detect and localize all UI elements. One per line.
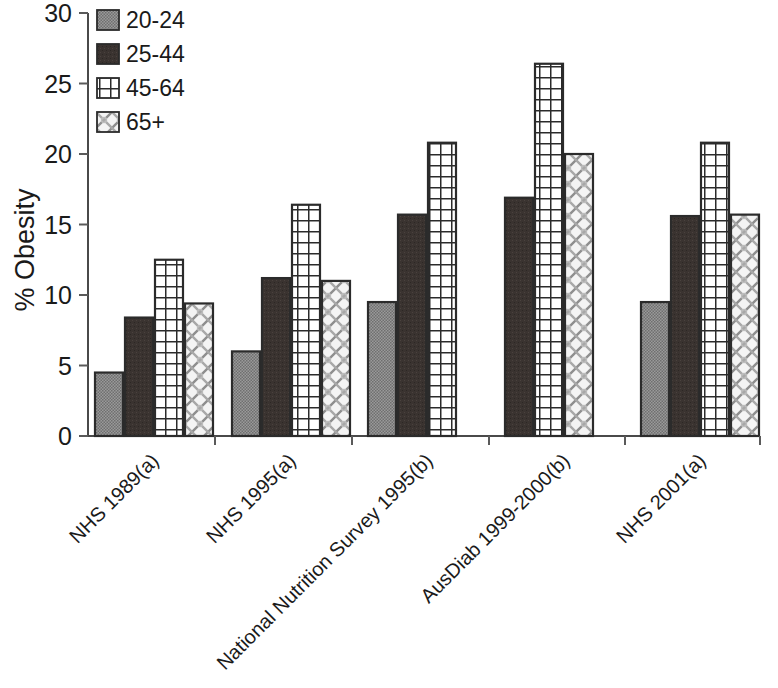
- category-labels-layer: NHS 1989(a)NHS 1995(a)National Nutrition…: [65, 436, 760, 674]
- bars-layer: NHS 1989(a) / 20-24: 4.5NHS 1989(a) / 25…: [95, 64, 759, 436]
- y-axis-tick-label: 30: [44, 0, 72, 27]
- bar-65plus-1: NHS 1989(a) / 65+: 9.4: [185, 303, 213, 436]
- y-axis-tick-label: 15: [44, 211, 72, 239]
- bar-20-24-1: NHS 1989(a) / 20-24: 4.5: [95, 373, 123, 436]
- legend-label-20-24: 20-24: [126, 7, 185, 33]
- legend-swatch-65plus: [97, 112, 119, 132]
- chart-legend: 20-2425-4445-6465+: [97, 7, 185, 135]
- bar-65plus-4: AusDiab 1999-2000(b) / 65+: 20: [565, 154, 593, 436]
- bar-45-64-4: AusDiab 1999-2000(b) / 45-64: 26.4: [535, 64, 563, 436]
- legend-swatch-20-24: [97, 10, 119, 30]
- bar-45-64-3: National Nutrition Survey 1995(b) / 45-6…: [428, 143, 456, 436]
- bar-65plus-2: NHS 1995(a) / 65+: 11: [322, 281, 350, 436]
- legend-label-25-44: 25-44: [126, 41, 185, 67]
- y-axis-tick-label: 5: [58, 352, 72, 380]
- legend-swatch-25-44: [97, 44, 119, 64]
- y-axis-tick-label: 0: [58, 422, 72, 450]
- bar-25-44-4: AusDiab 1999-2000(b) / 25-44: 16.9: [505, 198, 533, 436]
- bar-65plus-5: NHS 2001(a) / 65+: 15.7: [731, 215, 759, 436]
- y-axis-tick-label: 20: [44, 140, 72, 168]
- bar-25-44-5: NHS 2001(a) / 25-44: 15.6: [671, 216, 699, 436]
- legend-swatch-45-64: [97, 78, 119, 98]
- bar-25-44-3: National Nutrition Survey 1995(b) / 25-4…: [398, 215, 426, 436]
- legend-label-65plus: 65+: [126, 109, 165, 135]
- bar-45-64-2: NHS 1995(a) / 45-64: 16.4: [292, 205, 320, 436]
- bar-20-24-2: NHS 1995(a) / 20-24: 6: [232, 351, 260, 436]
- y-axis-title: % Obesity: [10, 188, 40, 312]
- chart-svg: 051015202530% Obesity NHS 1989(a) / 20-2…: [0, 0, 778, 688]
- x-axis-category-label: NHS 2001(a): [612, 449, 710, 547]
- legend-label-45-64: 45-64: [126, 75, 185, 101]
- bar-20-24-5: NHS 2001(a) / 20-24: 9.5: [641, 302, 669, 436]
- y-axis-tick-label: 25: [44, 70, 72, 98]
- x-axis-category-label: National Nutrition Survey 1995(b): [212, 449, 437, 674]
- x-axis-category-label: NHS 1995(a): [202, 449, 300, 547]
- y-axis-tick-label: 10: [44, 281, 72, 309]
- x-axis-category-label: AusDiab 1999-2000(b): [416, 449, 574, 607]
- bar-45-64-1: NHS 1989(a) / 45-64: 12.5: [155, 260, 183, 436]
- bar-20-24-3: National Nutrition Survey 1995(b) / 20-2…: [368, 302, 396, 436]
- obesity-bar-chart: 051015202530% Obesity NHS 1989(a) / 20-2…: [0, 0, 778, 688]
- bar-45-64-5: NHS 2001(a) / 45-64: 20.8: [701, 143, 729, 436]
- x-axis-category-label: NHS 1989(a): [65, 449, 163, 547]
- bar-25-44-2: NHS 1995(a) / 25-44: 11.2: [262, 278, 290, 436]
- bar-25-44-1: NHS 1989(a) / 25-44: 8.4: [125, 318, 153, 436]
